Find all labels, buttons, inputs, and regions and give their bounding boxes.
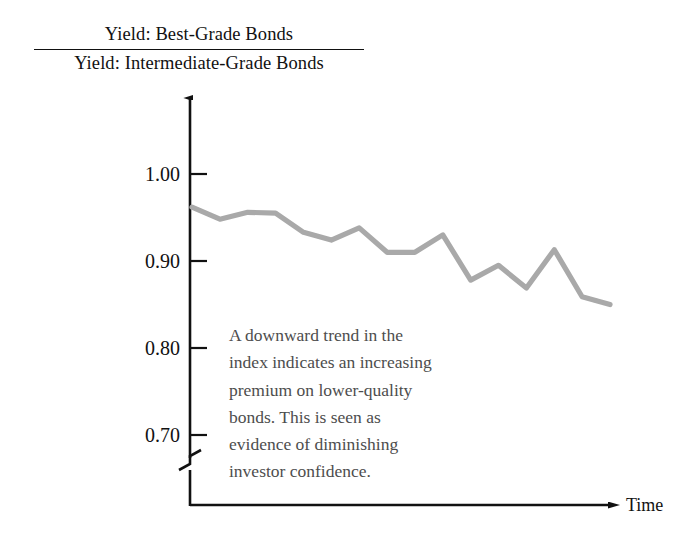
annotation-line: premium on lower-quality	[229, 377, 477, 404]
annotation-line: evidence of diminishing	[229, 431, 477, 458]
chart-annotation: A downward trend in theindex indicates a…	[229, 322, 477, 486]
annotation-line: index indicates an increasing	[229, 349, 477, 376]
data-series-line	[192, 207, 610, 304]
chart-page: Yield: Best-Grade Bonds Yield: Intermedi…	[0, 0, 685, 538]
y-tick-label-1: 0.90	[116, 250, 180, 273]
y-tick-label-2: 0.80	[116, 337, 180, 360]
annotation-line: A downward trend in the	[229, 322, 477, 349]
y-tick-label-3: 0.70	[116, 424, 180, 447]
annotation-line: bonds. This is seen as	[229, 404, 477, 431]
annotation-line: investor confidence.	[229, 458, 477, 485]
x-axis-label: Time	[626, 495, 663, 516]
y-tick-label-0: 1.00	[116, 163, 180, 186]
